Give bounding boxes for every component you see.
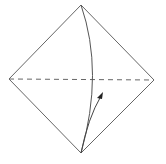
origami-diagram [0,0,166,164]
valley-fold-dashed-line [9,79,154,80]
diagram-svg [0,0,166,164]
fold-arrow-head-icon [97,92,103,99]
